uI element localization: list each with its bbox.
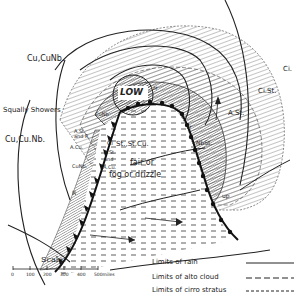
diagram-drawing	[0, 0, 298, 296]
scale-tick-300: 300	[60, 273, 69, 278]
label-st-stcu: St.,St.Cu.	[116, 141, 149, 148]
label-r: R	[72, 190, 76, 196]
label-cu-cunb-top: Cu,CuNb.	[27, 55, 64, 63]
label-fair-or: fair or	[130, 159, 154, 167]
label-up: up	[222, 193, 230, 199]
label-ci: Ci	[107, 140, 113, 146]
label-cunb-small: CuNb	[95, 112, 109, 117]
label-rr-right: rr	[187, 124, 192, 130]
scale-tick-400: 400	[77, 273, 86, 278]
scale-tick-200: 200	[43, 273, 52, 278]
label-low: LOW	[120, 88, 143, 97]
scale-tick-100: 100	[26, 273, 35, 278]
depression-diagram: Cu,CuNb. Squally Showers Cu,Cu.Nb. CuNb …	[0, 0, 298, 296]
label-ast-and-r: A.St. and R	[74, 129, 94, 139]
legend-alto-cloud: Limits of alto cloud	[152, 274, 219, 281]
scale-tick-500: 500miles	[94, 273, 115, 278]
label-squally-showers: Squally Showers	[3, 107, 61, 114]
scale-tick-0: 0	[11, 273, 14, 278]
label-ci-far: Ci.	[283, 66, 292, 73]
scale-title: Scale	[41, 256, 63, 264]
label-cunb-lower: CuNb.	[72, 164, 87, 169]
label-cist: Ci.St.	[258, 88, 276, 95]
label-fog-or-drizzle: fog or drizzle	[109, 171, 161, 179]
legend-rain: Limits of rain	[152, 259, 198, 266]
label-ast-small: A.St.	[104, 150, 116, 155]
label-nbst: NbSt.	[196, 140, 212, 146]
label-ast-right: A.St.	[228, 110, 244, 117]
label-cu-cunb-left: Cu,Cu.Nb.	[5, 136, 45, 144]
label-acu-left: A.Cu.	[70, 145, 83, 150]
label-rr-top: rr	[153, 85, 158, 91]
label-and: and	[104, 157, 113, 162]
legend-cirro-stratus: Limits of cirro stratus	[152, 287, 226, 294]
